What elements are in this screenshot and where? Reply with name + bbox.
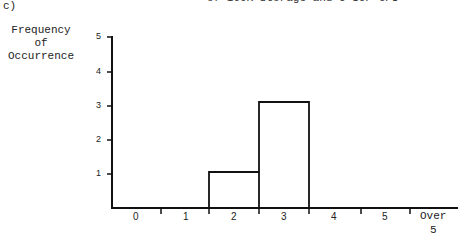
y-tick-3: 3 [96,100,101,110]
y-tick-1: 1 [96,168,101,178]
bar-2 [209,172,259,208]
x-label-over-line-1: Over [420,209,446,223]
x-label-1: 1 [183,211,189,222]
bar-3 [259,102,309,208]
x-label-3: 3 [281,211,287,222]
y-tick-5: 5 [96,31,101,41]
x-label-0: 0 [133,211,139,222]
x-label-2: 2 [231,211,237,222]
x-label-4: 4 [331,211,337,222]
histogram-plot [0,0,463,233]
y-tick-4: 4 [96,66,101,76]
x-label-5: 5 [382,211,388,222]
x-label-over-5: Over 5 [420,209,446,233]
x-label-over-line-2: 5 [420,223,446,233]
y-tick-2: 2 [96,134,101,144]
